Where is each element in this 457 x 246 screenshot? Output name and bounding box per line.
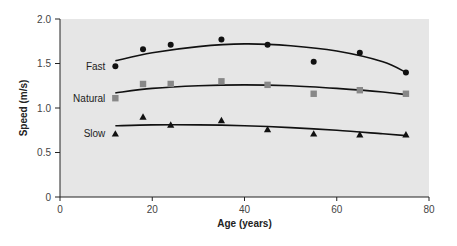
data-point-natural: [218, 78, 224, 84]
data-point-fast: [218, 36, 224, 42]
x-tick-label: 80: [423, 204, 435, 215]
data-point-natural: [168, 81, 174, 87]
data-point-natural: [112, 95, 118, 101]
series-label-fast: Fast: [86, 61, 106, 72]
x-tick-label: 40: [239, 204, 251, 215]
x-tick-label: 0: [57, 204, 63, 215]
data-point-natural: [403, 91, 409, 97]
data-point-natural: [140, 81, 146, 87]
data-point-natural: [357, 87, 363, 93]
data-point-fast: [140, 46, 146, 52]
series-label-natural: Natural: [73, 93, 105, 104]
data-point-fast: [112, 63, 118, 69]
x-tick-label: 20: [147, 204, 159, 215]
y-tick-label: 2.0: [37, 14, 51, 25]
plot-area: [60, 19, 429, 197]
data-point-natural: [310, 91, 316, 97]
data-point-fast: [311, 59, 317, 65]
data-point-fast: [357, 50, 363, 56]
series-label-slow: Slow: [84, 128, 106, 139]
y-axis-title: Speed (m/s): [18, 80, 29, 137]
data-point-fast: [403, 69, 409, 75]
y-tick-label: 1.0: [37, 103, 51, 114]
x-axis-title: Age (years): [217, 218, 271, 229]
y-tick-label: 0.5: [37, 147, 51, 158]
speed-vs-age-chart: FastNaturalSlow 00.51.01.52.0 020406080 …: [0, 0, 457, 246]
x-axis-ticks: 020406080: [57, 197, 435, 215]
data-point-fast: [168, 42, 174, 48]
data-point-natural: [264, 82, 270, 88]
y-axis-ticks: 00.51.01.52.0: [37, 14, 60, 203]
y-tick-label: 1.5: [37, 58, 51, 69]
x-tick-label: 60: [331, 204, 343, 215]
data-point-fast: [265, 42, 271, 48]
y-tick-label: 0: [45, 192, 51, 203]
